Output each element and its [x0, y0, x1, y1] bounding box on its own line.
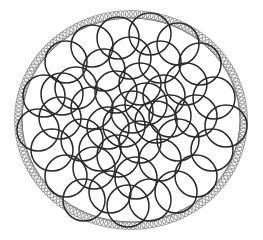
inner-circle [155, 171, 197, 213]
inner-circle [109, 37, 151, 79]
inner-circle [129, 179, 171, 221]
inner-circle [175, 155, 217, 197]
boundary-small-circle [125, 10, 132, 17]
inner-circle [107, 185, 149, 227]
inner-circle [31, 129, 73, 171]
circle-packing-diagram [0, 0, 263, 240]
inner-circle [39, 97, 81, 139]
inner-circle [71, 25, 113, 67]
inner-circle [17, 109, 59, 151]
boundary-small-circle [129, 10, 136, 17]
inner-circle [89, 171, 131, 213]
inner-circle [193, 77, 235, 119]
inner-circle [111, 91, 153, 133]
inner-circle [165, 63, 207, 105]
